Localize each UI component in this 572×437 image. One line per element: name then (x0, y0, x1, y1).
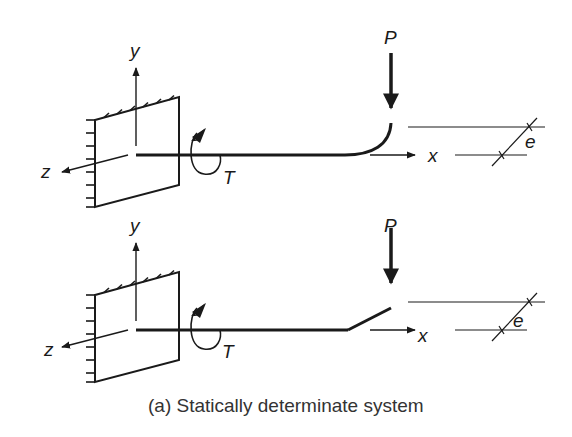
beam-kinked-tip (348, 308, 391, 330)
beam-curved-tip (345, 123, 391, 155)
eccentricity-label: e (513, 310, 524, 331)
load-label: P (384, 215, 397, 236)
z-axis-label: z (43, 339, 54, 360)
eccentricity-label: e (525, 131, 536, 152)
z-axis-label: z (40, 161, 51, 182)
torque-label: T (222, 341, 235, 362)
y-axis-label: y (128, 40, 141, 61)
panel-bottom (62, 228, 545, 382)
torque-label: T (223, 167, 236, 188)
diagram-canvas: y z T P x e y z T P x e (a) Statically d… (0, 0, 572, 437)
panel-top: y z T P x e (40, 27, 545, 207)
figure-caption: (a) Statically determinate system (148, 395, 424, 416)
y-axis-label: y (128, 215, 141, 236)
x-axis-label: x (427, 145, 439, 166)
x-axis-label: x (417, 325, 429, 346)
load-label: P (384, 27, 397, 48)
